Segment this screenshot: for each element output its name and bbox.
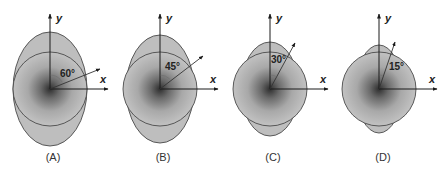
angle-label: 30° <box>271 54 286 65</box>
x-axis-label: x <box>319 73 327 85</box>
panel-a: yx60°(A) <box>13 12 108 163</box>
angle-label: 60° <box>60 68 75 79</box>
y-axis-label: y <box>55 12 63 24</box>
y-axis-label: y <box>165 12 173 24</box>
y-axis-label: y <box>275 12 283 24</box>
figure-canvas: yx60°(A) yx45°(B) yx30°(C) yx15°(D) <box>0 0 444 169</box>
angle-label: 45° <box>165 61 180 72</box>
panel-label: (A) <box>46 151 61 163</box>
x-axis-label: x <box>99 73 107 85</box>
y-axis-label: y <box>384 12 392 24</box>
angle-label: 15° <box>389 61 404 72</box>
x-axis-label: x <box>209 73 217 85</box>
panel-label: (B) <box>156 151 171 163</box>
x-axis-label: x <box>428 73 436 85</box>
panel-d: yx15°(D) <box>342 12 437 163</box>
panel-b: yx45°(B) <box>123 12 218 163</box>
panel-c: yx30°(C) <box>233 12 328 163</box>
panel-label: (C) <box>265 151 280 163</box>
panel-label: (D) <box>375 151 390 163</box>
